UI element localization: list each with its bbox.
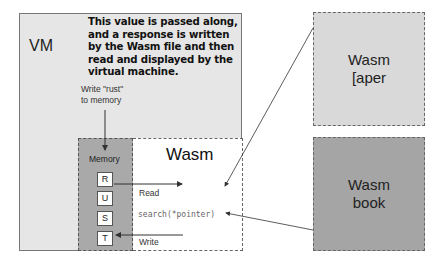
book-to-search-arrow [226,213,313,230]
paper-to-wasm-arrow [225,28,313,186]
arrows-layer [0,0,442,266]
